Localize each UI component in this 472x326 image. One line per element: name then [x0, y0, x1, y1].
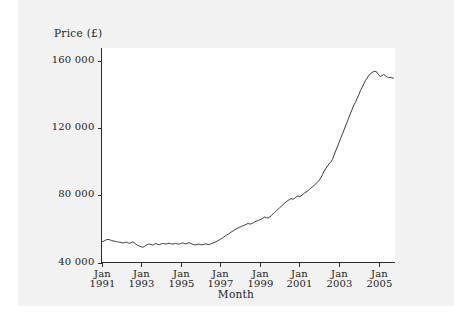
- y-tick-label: 80 000: [31, 189, 95, 200]
- data-series: [102, 71, 394, 247]
- x-axis-ticks: [103, 263, 380, 267]
- y-axis-label: Price (£): [54, 28, 102, 39]
- x-tick-year: 1997: [200, 279, 242, 290]
- price-line: [102, 71, 394, 247]
- x-tick-year: 1995: [161, 279, 203, 290]
- x-tick-label: Jan1993: [121, 269, 163, 291]
- x-tick-label: Jan2001: [279, 269, 321, 291]
- x-tick-label: Jan1999: [240, 269, 282, 291]
- x-tick-year: 2001: [279, 279, 321, 290]
- x-tick-year: 1993: [121, 279, 163, 290]
- x-axis-label: Month: [0, 289, 472, 300]
- x-tick-year: 2005: [359, 279, 401, 290]
- x-tick-year: 1999: [240, 279, 282, 290]
- y-tick-label: 120 000: [31, 122, 95, 133]
- y-axis-ticks: [98, 62, 102, 264]
- x-tick-label: Jan1991: [82, 269, 124, 291]
- x-tick-label: Jan2003: [319, 269, 361, 291]
- y-tick-label: 40 000: [31, 257, 95, 268]
- x-tick-label: Jan1995: [161, 269, 203, 291]
- x-tick-label: Jan1997: [200, 269, 242, 291]
- x-tick-label: Jan2005: [359, 269, 401, 291]
- figure-page: Price (£) Month 40 00080 000120 000160 0…: [0, 0, 472, 326]
- y-tick-label: 160 000: [31, 55, 95, 66]
- x-tick-year: 2003: [319, 279, 361, 290]
- axes: [101, 48, 395, 263]
- x-tick-year: 1991: [82, 279, 124, 290]
